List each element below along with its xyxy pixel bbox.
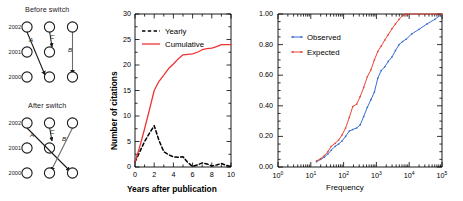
cdf-x-tick-label: 103: [364, 171, 388, 180]
cdf-x-tick-label: 105: [430, 171, 454, 180]
cdf-y-tick-label: 0.80: [236, 40, 273, 49]
cdf-point-observed: [426, 23, 428, 25]
cdf-x-tick-label: 104: [397, 171, 421, 180]
cdf-legend-label-observed: Observed: [307, 33, 341, 42]
citations-y-tick-label: 0: [104, 162, 131, 171]
cdf-point-expected: [341, 134, 343, 136]
cdf-point-expected: [338, 139, 340, 141]
cdf-x-axis-title: Frequency: [326, 183, 364, 192]
before-node-2002-left: [22, 22, 32, 32]
before-node-2000-middle: [44, 72, 54, 82]
cdf-point-expected: [398, 19, 400, 21]
cdf-point-observed: [363, 116, 365, 118]
cdf-point-observed: [352, 129, 354, 131]
cdf-y-tick-label: 0.60: [236, 70, 273, 79]
cdf-point-expected: [395, 23, 397, 25]
cdf-point-observed: [402, 41, 404, 43]
cdf-point-expected: [320, 158, 322, 160]
network-switch-diagrams-panel: Before switch 2002 2001 2000 A C B: [0, 0, 104, 201]
cdf-point-expected: [352, 106, 354, 108]
before-node-2002-middle: [44, 22, 54, 32]
citation-time-series-panel: YearlyCumulative Number of citations Yea…: [104, 0, 236, 201]
before-node-2000-right: [67, 72, 77, 82]
cdf-legend-dot: [300, 36, 302, 38]
cdf-point-expected: [377, 51, 379, 53]
cdf-point-expected: [349, 116, 351, 118]
cdf-y-tick-label: 0.20: [236, 131, 273, 140]
cdf-point-expected: [324, 155, 326, 157]
before-switch-graph: [0, 0, 104, 100]
citations-legend-label-yearly: Yearly: [165, 27, 186, 36]
citations-y-tick-label: 20: [104, 60, 131, 69]
cdf-legend-dot: [300, 51, 302, 53]
before-node-2000-left: [22, 72, 32, 82]
cdf-point-observed: [334, 145, 336, 147]
after-node-2002-middle: [44, 118, 54, 128]
citations-x-axis-title: Years after publication: [127, 184, 217, 194]
cdf-point-observed: [377, 77, 379, 79]
citations-legend-label-cumulative: Cumulative: [165, 40, 204, 49]
cdf-point-expected: [359, 96, 361, 98]
cdf-x-tick-label: 100: [266, 171, 290, 180]
cdf-point-expected: [370, 69, 372, 71]
cdf-y-tick-label: 0.40: [236, 101, 273, 110]
cdf-point-observed: [398, 44, 400, 46]
citations-x-tick-label: 2: [146, 170, 162, 179]
citations-x-tick-label: 4: [165, 170, 181, 179]
cdf-y-tick-label: 0.00: [236, 162, 273, 171]
citations-x-tick-label: 6: [185, 170, 201, 179]
cdf-legend-dot: [292, 51, 294, 53]
cdf-point-expected: [330, 145, 332, 147]
cdf-point-observed: [367, 106, 369, 108]
after-node-2000-middle: [44, 168, 54, 178]
citations-y-tick-label: 5: [104, 137, 131, 146]
cdf-point-expected: [380, 45, 382, 47]
cdf-point-observed: [380, 70, 382, 72]
citations-legend: YearlyCumulative: [142, 27, 204, 49]
cdf-point-observed: [345, 136, 347, 138]
after-node-2001-left: [22, 143, 32, 153]
cdf-legend-label-expected: Expected: [307, 48, 340, 57]
frequency-cdf-panel: ObservedExpected Frequency 1001011021031…: [236, 0, 463, 201]
after-node-2000-right: [67, 168, 77, 178]
cdf-point-expected: [334, 142, 336, 144]
before-edge-c: [50, 31, 53, 47]
before-node-2001-left: [22, 47, 32, 57]
after-node-2002-left: [22, 118, 32, 128]
after-node-2000-left: [22, 168, 32, 178]
cdf-point-expected: [345, 127, 347, 129]
cdf-legend: ObservedExpected: [291, 33, 341, 57]
cdf-y-tick-label: 1.00: [236, 9, 273, 18]
cdf-point-observed: [359, 124, 361, 126]
citations-y-tick-label: 25: [104, 35, 131, 44]
citations-x-tick-label: 8: [204, 170, 220, 179]
citations-axes: [135, 14, 231, 167]
cdf-point-observed: [405, 38, 407, 40]
cdf-point-observed: [411, 33, 413, 35]
cdf-point-expected: [367, 76, 369, 78]
citations-y-tick-label: 15: [104, 86, 131, 95]
cdf-point-observed: [349, 130, 351, 132]
cdf-point-expected: [363, 87, 365, 89]
before-node-2001-middle: [44, 47, 54, 57]
after-edge-c: [50, 127, 53, 141]
citations-x-tick-label: 0: [127, 170, 143, 179]
cdf-x-tick-label: 102: [332, 171, 356, 180]
cdf-point-expected: [391, 28, 393, 30]
cdf-point-observed: [356, 127, 358, 129]
after-edge-a: [27, 128, 70, 171]
figure-root: Before switch 2002 2001 2000 A C B: [0, 0, 463, 201]
cdf-point-expected: [402, 15, 404, 17]
cdf-point-observed: [330, 149, 332, 151]
cdf-point-expected: [316, 160, 318, 162]
cdf-point-expected: [387, 34, 389, 36]
citations-series-yearly: [135, 126, 231, 167]
cdf-point-observed: [374, 91, 376, 93]
cdf-point-expected: [405, 13, 407, 15]
cdf-point-expected: [356, 103, 358, 105]
cdf-point-observed: [418, 28, 420, 30]
after-node-2001-middle: [44, 143, 54, 153]
cdf-point-observed: [370, 99, 372, 101]
cdf-point-observed: [341, 140, 343, 142]
cdf-point-observed: [327, 153, 329, 155]
